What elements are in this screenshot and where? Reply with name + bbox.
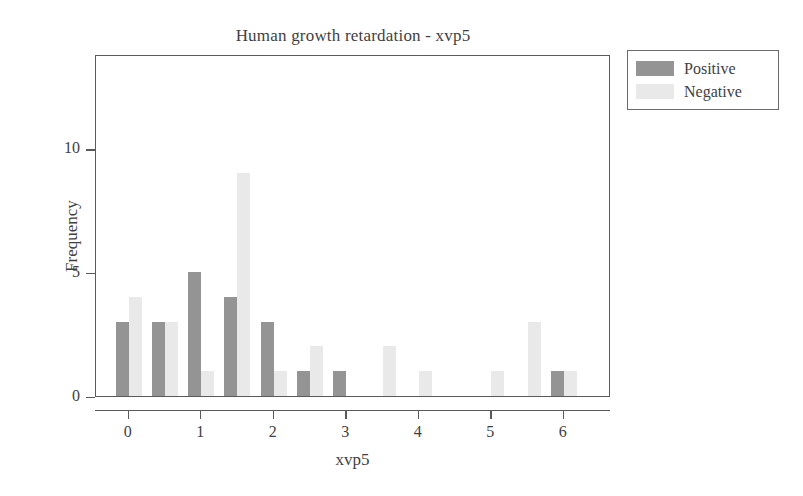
plot-area <box>96 56 609 396</box>
bar-negative-0 <box>129 297 142 396</box>
x-tick-mark <box>490 410 491 419</box>
y-tick-label: 5 <box>40 263 80 281</box>
chart-title: Human growth retardation - xvp5 <box>95 26 611 46</box>
x-tick-label: 3 <box>325 423 365 441</box>
bar-negative-0_5 <box>165 322 178 396</box>
x-tick-label: 4 <box>398 423 438 441</box>
x-tick-mark <box>345 410 346 419</box>
chart-legend: PositiveNegative <box>627 50 779 110</box>
bar-negative-3_5 <box>383 346 396 396</box>
y-tick-label: 0 <box>40 387 80 405</box>
bar-negative-4 <box>419 371 432 396</box>
y-tick-label: 10 <box>40 139 80 157</box>
y-axis-label: Frequency <box>62 156 82 316</box>
legend-swatch-negative <box>636 84 674 99</box>
x-axis-line <box>95 410 610 411</box>
bar-positive-1_5 <box>224 297 237 396</box>
x-tick-label: 2 <box>253 423 293 441</box>
x-tick-mark <box>418 410 419 419</box>
plot-frame <box>95 55 610 397</box>
legend-label-negative: Negative <box>684 84 742 100</box>
bar-negative-1_5 <box>237 173 250 396</box>
legend-item-negative: Negative <box>636 80 770 103</box>
bar-negative-2_5 <box>310 346 323 396</box>
x-tick-mark <box>273 410 274 419</box>
y-tick-mark <box>86 149 95 150</box>
bar-positive-3 <box>333 371 346 396</box>
bar-negative-5 <box>491 371 504 396</box>
bar-negative-2 <box>274 371 287 396</box>
bar-positive-2 <box>261 322 274 396</box>
bar-positive-6 <box>551 371 564 396</box>
legend-swatch-positive <box>636 61 674 76</box>
chart-figure: Human growth retardation - xvp5 Frequenc… <box>0 0 803 496</box>
bar-negative-5_5 <box>528 322 541 396</box>
x-tick-mark <box>200 410 201 419</box>
x-tick-mark <box>563 410 564 419</box>
bar-negative-6 <box>564 371 577 396</box>
bar-positive-2_5 <box>297 371 310 396</box>
x-tick-label: 5 <box>470 423 510 441</box>
bar-positive-1 <box>188 272 201 396</box>
y-tick-mark <box>86 273 95 274</box>
x-tick-label: 6 <box>543 423 583 441</box>
y-tick-mark <box>86 397 95 398</box>
x-tick-label: 0 <box>108 423 148 441</box>
bar-positive-0_5 <box>152 322 165 396</box>
x-axis-label: xvp5 <box>95 450 610 470</box>
bar-negative-1 <box>201 371 214 396</box>
bar-positive-0 <box>116 322 129 396</box>
x-tick-mark <box>128 410 129 419</box>
legend-item-positive: Positive <box>636 57 770 80</box>
x-tick-label: 1 <box>180 423 220 441</box>
legend-label-positive: Positive <box>684 61 736 77</box>
